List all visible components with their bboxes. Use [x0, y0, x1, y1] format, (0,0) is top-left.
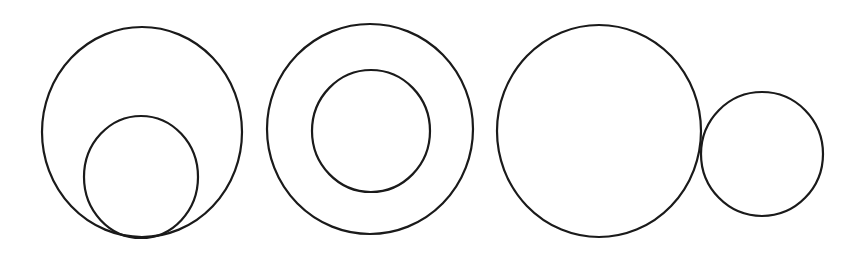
figure-concentric	[267, 24, 473, 234]
figure-externally-tangent	[497, 25, 823, 237]
circles-diagram	[0, 0, 866, 255]
large-circle	[497, 25, 701, 237]
outer-circle	[42, 27, 242, 237]
figure-internally-tangent	[42, 27, 242, 238]
inner-circle	[84, 116, 198, 238]
small-circle	[701, 92, 823, 216]
outer-circle	[267, 24, 473, 234]
inner-circle	[312, 70, 430, 192]
